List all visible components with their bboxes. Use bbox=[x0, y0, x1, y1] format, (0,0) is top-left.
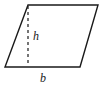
parallelogram-outline bbox=[5, 5, 98, 67]
parallelogram-diagram: h b bbox=[0, 0, 103, 88]
geometry-figure: h b bbox=[0, 0, 103, 88]
base-label: b bbox=[40, 71, 46, 85]
height-label: h bbox=[33, 29, 39, 43]
